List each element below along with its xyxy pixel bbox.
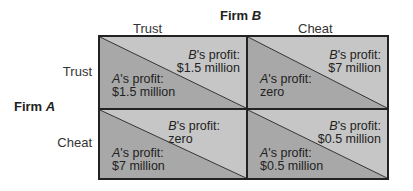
b-payoff: B's profit:$7 million bbox=[328, 49, 381, 75]
cell-trust-cheat: B's profit:$7 million A's profit:zero bbox=[248, 37, 387, 110]
column-label-cheat: Cheat bbox=[298, 21, 333, 36]
firm-a-title: Firm A bbox=[14, 99, 55, 114]
column-label-trust: Trust bbox=[133, 21, 162, 36]
a-payoff: A's profit:$7 million bbox=[112, 147, 165, 173]
b-payoff: B's profit:$1.5 million bbox=[177, 49, 240, 75]
a-payoff: A's profit:zero bbox=[260, 73, 312, 99]
b-payoff: B's profit:$0.5 million bbox=[318, 120, 381, 146]
row-label-cheat: Cheat bbox=[32, 135, 92, 150]
firm-b-title: Firm B bbox=[220, 8, 261, 23]
a-payoff: A's profit:$1.5 million bbox=[112, 73, 175, 99]
row-label-trust: Trust bbox=[32, 64, 92, 79]
cell-cheat-cheat: B's profit:$0.5 million A's profit:$0.5 … bbox=[248, 110, 387, 178]
payoff-matrix: B's profit:$1.5 million A's profit:$1.5 … bbox=[98, 35, 389, 180]
b-payoff: B's profit:zero bbox=[168, 120, 220, 146]
cell-cheat-trust: B's profit:zero A's profit:$7 million bbox=[100, 110, 248, 178]
cell-trust-trust: B's profit:$1.5 million A's profit:$1.5 … bbox=[100, 37, 248, 110]
a-payoff: A's profit:$0.5 million bbox=[260, 147, 323, 173]
